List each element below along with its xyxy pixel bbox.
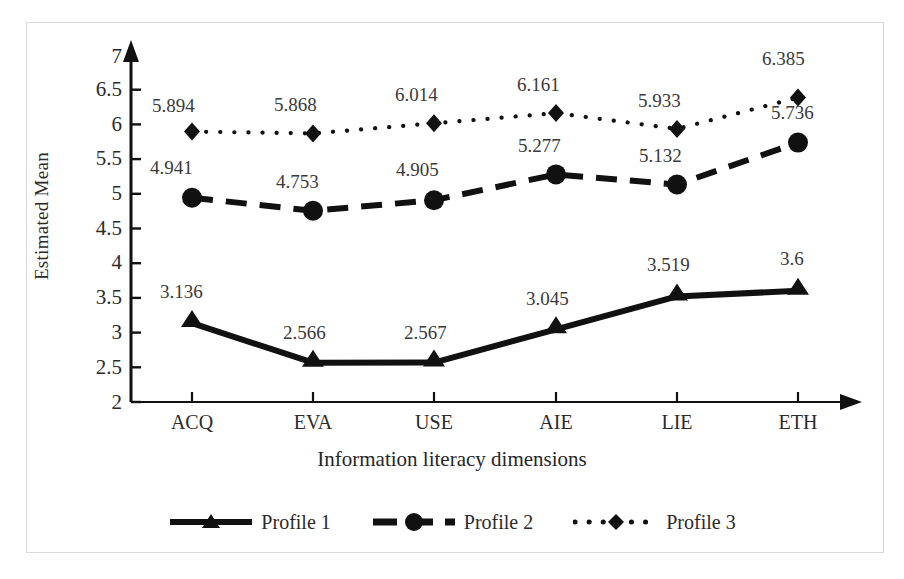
data-label-p1-acq: 3.136 <box>160 282 203 301</box>
x-tick-label-lie: LIE <box>622 412 732 432</box>
y-tick-label: 4 <box>78 252 122 273</box>
data-label-p1-eth: 3.6 <box>780 249 804 268</box>
data-label-p2-eva: 4.753 <box>276 172 319 191</box>
y-tick-label: 2.5 <box>78 357 122 378</box>
data-label-p1-aie: 3.045 <box>526 289 569 308</box>
data-label-p1-lie: 3.519 <box>647 255 690 274</box>
y-tick-label: 5 <box>78 183 122 204</box>
y-tick-label: 2 <box>78 392 122 413</box>
y-tick-label: 3 <box>78 322 122 343</box>
data-label-p3-aie: 6.161 <box>517 75 560 94</box>
y-axis-title: Estimated Mean <box>31 126 53 306</box>
x-tick-label-aie: AIE <box>501 412 611 432</box>
data-label-p3-eth: 6.385 <box>762 49 805 68</box>
x-tick-label-acq: ACQ <box>137 412 247 432</box>
legend-label-profile-2: Profile 2 <box>464 512 533 532</box>
legend-item-profile-2[interactable]: Profile 2 <box>371 512 533 532</box>
y-tick-label: 5.5 <box>78 148 122 169</box>
y-tick-label: 3.5 <box>78 287 122 308</box>
data-label-p1-eva: 2.566 <box>283 323 326 342</box>
data-label-p2-eth: 5.736 <box>771 103 814 122</box>
y-tick-label: 7 <box>78 46 122 67</box>
data-label-p1-use: 2.567 <box>404 323 447 342</box>
figure-container: Estimated Mean 7 6.5 6 5.5 5 4.5 4 3.5 3… <box>0 0 904 579</box>
chart-legend: Profile 1 Profile 2 Profile 3 <box>0 512 904 532</box>
x-tick-label-eth: ETH <box>743 412 853 432</box>
data-label-p3-eva: 5.868 <box>274 95 317 114</box>
legend-item-profile-1[interactable]: Profile 1 <box>168 512 330 532</box>
data-label-p3-use: 6.014 <box>395 85 438 104</box>
legend-item-profile-3[interactable]: Profile 3 <box>573 512 735 532</box>
data-label-p3-acq: 5.894 <box>152 96 195 115</box>
dashed-circle-key-icon <box>371 512 457 532</box>
data-label-p2-aie: 5.277 <box>518 136 561 155</box>
y-tick-label: 4.5 <box>78 218 122 239</box>
y-tick-label: 6 <box>78 114 122 135</box>
data-label-p2-lie: 5.132 <box>639 146 682 165</box>
x-tick-label-use: USE <box>379 412 489 432</box>
y-tick-label: 6.5 <box>78 79 122 100</box>
x-axis-title: Information literacy dimensions <box>0 447 904 472</box>
dotted-diamond-key-icon <box>573 512 659 532</box>
data-label-p2-use: 4.905 <box>396 160 439 179</box>
data-label-p2-acq: 4.941 <box>150 158 193 177</box>
x-tick-label-eva: EVA <box>258 412 368 432</box>
solid-triangle-key-icon <box>168 512 254 532</box>
legend-label-profile-1: Profile 1 <box>261 512 330 532</box>
data-label-p3-lie: 5.933 <box>638 91 681 110</box>
legend-label-profile-3: Profile 3 <box>666 512 735 532</box>
